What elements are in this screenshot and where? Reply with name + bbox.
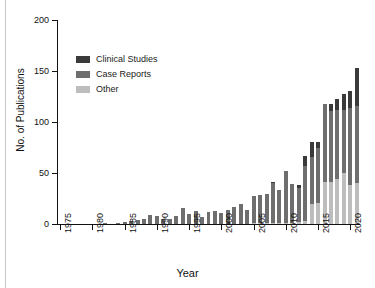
plot-area	[57, 20, 360, 224]
bar-segment	[342, 173, 346, 224]
bar-group	[123, 222, 127, 224]
x-axis-tick-label: 1990	[161, 213, 170, 233]
bar-segment	[303, 166, 307, 221]
bar-segment	[213, 211, 217, 224]
legend-item-label: Clinical Studies	[96, 55, 158, 64]
bar-segment	[316, 203, 320, 224]
x-axis-tick-label: 2015	[322, 213, 331, 233]
bar-segment	[252, 223, 256, 224]
bar-segment	[303, 221, 307, 224]
bar-segment	[303, 156, 307, 166]
bar-segment	[219, 213, 223, 224]
x-axis-tick-mark	[318, 225, 319, 230]
legend-item: Case Reports	[76, 67, 158, 82]
bar-group	[252, 196, 256, 224]
bar-segment	[310, 157, 314, 204]
bar-segment	[207, 212, 211, 224]
bar-segment	[271, 223, 275, 224]
y-axis-tick-label: 0	[44, 220, 49, 229]
bar-group	[239, 204, 243, 224]
legend-swatch-icon	[76, 86, 90, 93]
bar-segment	[271, 182, 275, 183]
x-axis-title: Year	[0, 268, 375, 279]
bar-group	[245, 210, 249, 224]
bar-group	[303, 156, 307, 224]
y-axis-title: No. of Publications	[16, 40, 26, 180]
bar-segment	[181, 208, 185, 224]
x-axis-tick-label: 2010	[290, 213, 299, 233]
bar-segment	[348, 185, 352, 224]
bar-segment	[323, 104, 327, 183]
bar-segment	[316, 142, 320, 147]
left-edge-rule	[5, 0, 6, 288]
bar-segment	[329, 104, 333, 111]
bar-group	[155, 216, 159, 224]
x-axis-tick-mark	[125, 225, 126, 230]
bar-segment	[335, 99, 339, 110]
bar-segment	[239, 204, 243, 224]
bar-segment	[252, 196, 256, 223]
x-axis-tick-mark	[189, 225, 190, 230]
bar-segment	[348, 108, 352, 186]
bar-segment	[297, 185, 301, 188]
bar-group	[271, 182, 275, 224]
bar-segment	[123, 222, 127, 224]
x-axis-tick-mark	[254, 225, 255, 230]
x-axis-tick-label: 2000	[225, 213, 234, 233]
bar-segment	[148, 215, 152, 224]
bar-group	[355, 68, 359, 224]
bar-group	[174, 216, 178, 224]
bar-segment	[271, 183, 275, 223]
bar-segment	[277, 223, 281, 224]
x-axis-tick-label: 1995	[193, 213, 202, 233]
bar-group	[219, 213, 223, 224]
x-axis-tick-mark	[157, 225, 158, 230]
bar-segment	[187, 214, 191, 224]
x-axis-tick-mark	[92, 225, 93, 230]
legend-swatch-icon	[76, 56, 90, 63]
bar-segment	[355, 106, 359, 184]
bar-group	[335, 99, 339, 224]
legend-item-label: Case Reports	[96, 70, 151, 79]
bar-segment	[310, 142, 314, 156]
bar-group	[142, 219, 146, 224]
bar-segment	[342, 110, 346, 173]
bar-group	[277, 190, 281, 224]
legend-item-label: Other	[96, 85, 119, 94]
y-axis-tick-label: 100	[34, 118, 49, 127]
x-axis-tick-mark	[60, 225, 61, 230]
y-axis-tick-label: 200	[34, 16, 49, 25]
legend-item: Clinical Studies	[76, 52, 158, 67]
bar-group	[348, 91, 352, 224]
bar-segment	[277, 190, 281, 223]
x-axis-tick-label: 1975	[64, 213, 73, 233]
x-axis-tick-label: 2020	[354, 213, 363, 233]
x-axis-tick-label: 1980	[96, 213, 105, 233]
y-axis-tick-mark	[52, 224, 57, 225]
bar-segment	[155, 216, 159, 224]
x-axis-tick-mark	[350, 225, 351, 230]
bar-segment	[284, 223, 288, 224]
legend-item: Other	[76, 82, 158, 97]
x-axis-tick-label: 1985	[129, 213, 138, 233]
x-axis-tick-mark	[221, 225, 222, 230]
bar-segment	[174, 216, 178, 224]
bar-segment	[310, 204, 314, 224]
bar-segment	[348, 91, 352, 107]
bar-group	[207, 212, 211, 224]
bar-group	[329, 104, 333, 224]
chart-legend: Clinical StudiesCase ReportsOther	[76, 52, 158, 97]
bar-segment	[355, 68, 359, 106]
bar-group	[316, 142, 320, 224]
x-axis-tick-mark	[286, 225, 287, 230]
bar-segment	[342, 94, 346, 109]
bar-segment	[335, 110, 339, 179]
bar-group	[213, 211, 217, 224]
bar-group	[342, 94, 346, 224]
bar-group	[116, 223, 120, 224]
bar-group	[148, 215, 152, 224]
legend-swatch-icon	[76, 71, 90, 78]
bar-segment	[335, 179, 339, 224]
x-axis-tick-label: 2005	[258, 213, 267, 233]
bar-segment	[142, 219, 146, 224]
